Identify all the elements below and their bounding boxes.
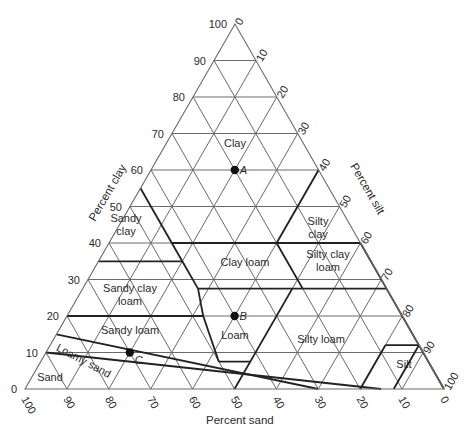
sand-tick-label: 100 — [19, 394, 39, 416]
region-label-silty-clay-loam: Silty clayloam — [306, 248, 350, 273]
region-label-silty-clay: Siltyclay — [308, 215, 329, 240]
texture-boundary-line — [182, 261, 198, 288]
texture-boundary-line — [250, 289, 292, 362]
sample-point-label: C — [135, 354, 143, 366]
sample-point-a — [231, 166, 239, 174]
soil-texture-triangle: 0102030405060708090100010203040506070809… — [0, 0, 474, 436]
sand-tick-label: 0 — [438, 394, 451, 405]
sample-point-c — [126, 348, 134, 356]
sand-tick-label: 30 — [313, 394, 330, 411]
sand-tick-label: 60 — [187, 394, 204, 411]
texture-boundary-line — [172, 243, 183, 261]
clay-tick-label: 90 — [194, 55, 206, 67]
clay-tick-label: 80 — [173, 91, 185, 103]
region-label-loamy-sand: Loamy sand — [55, 341, 114, 380]
clay-tick-label: 70 — [152, 128, 164, 140]
clay-tick-label: 10 — [26, 347, 38, 359]
clay-tick-label: 40 — [89, 237, 101, 249]
texture-boundary-line — [198, 289, 203, 316]
region-label-silty-loam: Silty loam — [297, 333, 345, 345]
sand-tick-label: 10 — [396, 394, 413, 411]
clay-tick-label: 20 — [47, 310, 59, 322]
clay-tick-label: 60 — [131, 164, 143, 176]
clay-tick-label: 0 — [11, 383, 17, 395]
texture-boundary-line — [277, 243, 303, 289]
sand-tick-label: 50 — [229, 394, 246, 411]
region-label-silt: Silt — [396, 358, 411, 370]
sample-point-label: B — [240, 310, 247, 322]
silt-axis-label: Percent silt — [348, 161, 387, 217]
sand-axis-label: Percent sand — [206, 414, 274, 426]
region-label-clay-loam: Clay loam — [221, 256, 270, 268]
region-label-sandy-loam: Sandy loam — [101, 324, 159, 336]
region-label-loam: Loam — [221, 329, 249, 341]
sand-tick-label: 70 — [145, 394, 162, 411]
texture-boundary-line — [360, 345, 385, 389]
sand-tick-label: 90 — [61, 394, 78, 411]
clay-tick-label: 30 — [68, 274, 80, 286]
region-label-clay: Clay — [224, 137, 247, 149]
sand-tick-label: 80 — [103, 394, 120, 411]
region-label-sand: Sand — [37, 371, 63, 383]
clay-tick-label: 50 — [110, 201, 122, 213]
sample-point-b — [230, 312, 238, 320]
sand-tick-label: 20 — [354, 394, 371, 411]
silt-tick-label: 100 — [441, 370, 461, 392]
clay-tick-label: 100 — [209, 18, 227, 30]
sample-point-label: A — [239, 164, 247, 176]
region-label-sandy-clay-loam: Sandy clayloam — [103, 282, 157, 307]
sand-tick-label: 40 — [271, 394, 288, 411]
ternary-diagram: 0102030405060708090100010203040506070809… — [0, 0, 474, 436]
